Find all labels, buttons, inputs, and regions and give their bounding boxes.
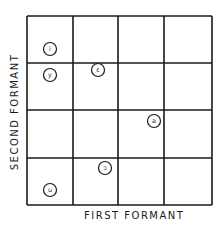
vowel-markers: iyεaɔu <box>44 43 161 197</box>
vowel-symbol: y <box>48 71 52 79</box>
vowel-symbol: ɔ <box>103 164 107 172</box>
vowel-marker: u <box>44 184 57 197</box>
vowel-marker: i <box>44 43 57 56</box>
formant-grid-diagram: iyεaɔu <box>0 0 222 229</box>
x-axis-label: FIRST FORMANT <box>84 210 184 221</box>
vowel-marker: ε <box>92 64 105 77</box>
y-axis-label: SECOND FORMANT <box>9 54 20 171</box>
vowel-marker: y <box>44 69 57 82</box>
vowel-symbol: ε <box>96 66 100 74</box>
vowel-symbol: a <box>152 117 156 125</box>
vowel-marker: a <box>148 115 161 128</box>
vowel-marker: ɔ <box>99 162 112 175</box>
vowel-symbol: u <box>48 186 52 194</box>
vowel-symbol: i <box>49 45 51 53</box>
